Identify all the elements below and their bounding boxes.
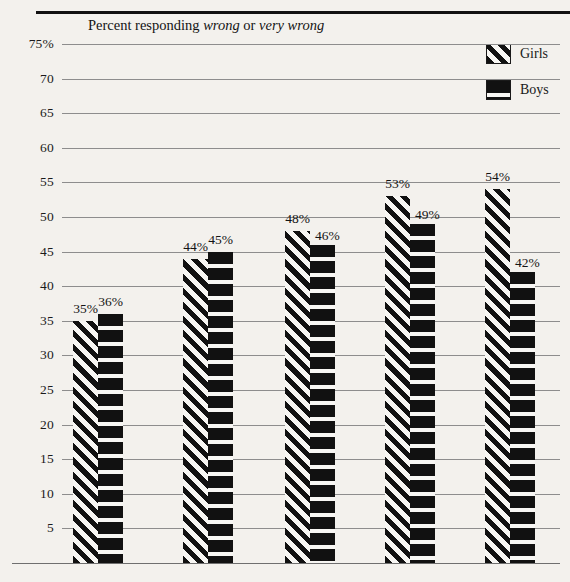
y-axis-tick-60: 60 [0,141,54,155]
y-axis-tick-35: 35 [0,314,54,328]
bar-girls-5 [485,189,510,563]
y-axis-tick-50: 50 [0,210,54,224]
bar-girls-2 [183,259,208,563]
x-axis-baseline [12,563,560,564]
bar-boys-2 [208,252,233,563]
bar-girls-1 [73,321,98,563]
y-axis-tick-15: 15 [0,452,54,466]
gridline-65 [62,113,560,114]
bar-boys-4 [410,224,435,563]
y-axis-tick-25: 25 [0,383,54,397]
y-axis-tick-70: 70 [0,72,54,86]
y-axis-tick-75: 75% [0,37,54,51]
value-label-boys-4: 49% [415,208,440,222]
gridline-70 [62,79,560,80]
value-label-boys-5: 42% [515,256,540,270]
y-axis-tick-65: 65 [0,106,54,120]
y-axis-tick-5: 5 [0,521,54,535]
gridline-60 [62,148,560,149]
gridline-75 [62,44,560,45]
bar-boys-3 [310,245,335,563]
bar-girls-3 [285,231,310,563]
value-label-boys-3: 46% [315,229,340,243]
bar-girls-4 [385,196,410,563]
value-label-girls-4: 53% [380,177,415,191]
y-axis-tick-40: 40 [0,279,54,293]
plot-area: 75%70656055504540353025201510535%36%44%4… [0,0,570,582]
bar-boys-5 [510,272,535,563]
value-label-boys-1: 36% [93,295,128,309]
value-label-girls-3: 48% [280,212,315,226]
y-axis-tick-10: 10 [0,487,54,501]
bar-boys-1 [98,314,123,563]
y-axis-tick-55: 55 [0,175,54,189]
y-axis-tick-20: 20 [0,418,54,432]
y-axis-tick-45: 45 [0,245,54,259]
value-label-girls-5: 54% [480,170,515,184]
y-axis-tick-30: 30 [0,348,54,362]
value-label-boys-2: 45% [203,233,238,247]
